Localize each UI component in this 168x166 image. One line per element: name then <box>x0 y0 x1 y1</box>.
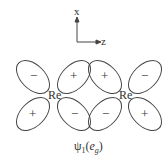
lobe-sign: + <box>141 106 148 122</box>
lobe-sign: − <box>141 68 148 84</box>
atom-label-left: Re <box>48 88 61 103</box>
lobe-sign: − <box>30 68 37 84</box>
axis-arrows <box>75 17 101 44</box>
caption-close: ) <box>99 139 103 153</box>
caption-psi: ψ <box>74 139 82 153</box>
axis-label-x: x <box>74 5 80 17</box>
lobe-sign: + <box>70 68 77 84</box>
lobe-sign: − <box>71 106 78 122</box>
atom-label-right: Re <box>119 88 132 103</box>
axis-label-z: z <box>101 35 106 47</box>
lobe-sign: − <box>102 106 109 122</box>
lobe-sign: + <box>101 68 108 84</box>
lobe-sign: + <box>29 106 36 122</box>
caption: ψ1(eg) <box>74 139 103 155</box>
